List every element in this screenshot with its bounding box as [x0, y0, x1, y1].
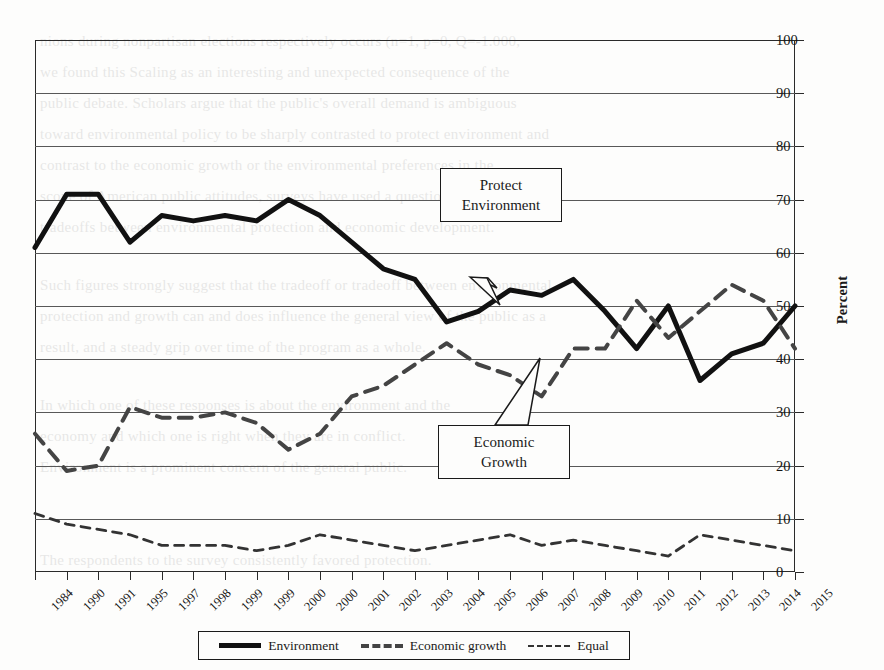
legend-label: Environment: [268, 638, 339, 654]
legend-swatch-icon: [361, 644, 403, 648]
callout-environment-pointer: [470, 277, 500, 305]
legend-item-equal[interactable]: Equal: [528, 638, 609, 654]
callout-protect-environment: Protect Environment: [440, 168, 562, 222]
legend-item-environment[interactable]: Environment: [219, 638, 339, 654]
callout-growth-pointer: [495, 358, 540, 425]
callout-growth-line2: Growth: [448, 452, 560, 472]
legend-swatch-icon: [528, 645, 570, 647]
chart-legend: EnvironmentEconomic growthEqual: [198, 631, 630, 660]
legend-swatch-icon: [219, 643, 261, 648]
legend-label: Equal: [577, 638, 609, 654]
figure-container: 0102030405060708090100 19841990199119951…: [0, 0, 884, 670]
callout-growth-line1: Economic: [448, 432, 560, 452]
legend-item-economic-growth[interactable]: Economic growth: [361, 638, 506, 654]
callout-environment-line1: Protect: [450, 175, 552, 195]
legend-label: Economic growth: [410, 638, 506, 654]
callout-environment-line2: Environment: [450, 195, 552, 215]
callout-leaders: [0, 0, 884, 670]
callout-economic-growth: Economic Growth: [438, 425, 570, 479]
